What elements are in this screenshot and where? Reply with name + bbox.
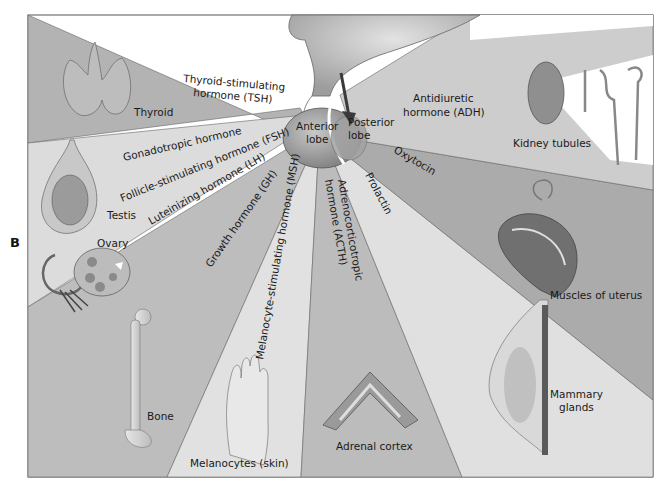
posterior-lobe-label-2: lobe bbox=[348, 129, 370, 141]
label-ovary: Ovary bbox=[97, 237, 128, 249]
hand-illustration bbox=[227, 355, 269, 465]
label-kidney-tubules: Kidney tubules bbox=[513, 137, 591, 149]
anterior-lobe-label-2: lobe bbox=[306, 133, 328, 145]
label-adrenal-cortex: Adrenal cortex bbox=[336, 440, 413, 452]
label-uterus: Muscles of uterus bbox=[550, 289, 642, 301]
anterior-lobe-label: Anterior bbox=[296, 120, 339, 132]
label-adh-2: hormone (ADH) bbox=[403, 106, 485, 118]
label-bone: Bone bbox=[147, 410, 174, 422]
posterior-lobe-label: Posterior bbox=[348, 116, 395, 128]
label-mammary-2: glands bbox=[559, 401, 594, 413]
panel-letter: B bbox=[10, 235, 20, 250]
label-testis: Testis bbox=[106, 209, 136, 221]
diagram-canvas: Anterior lobe Posterior lobe bbox=[0, 0, 667, 491]
label-thyroid: Thyroid bbox=[133, 106, 173, 118]
label-mammary-1: Mammary bbox=[550, 388, 603, 400]
pituitary-hormone-diagram: B bbox=[0, 0, 667, 491]
label-melanocytes: Melanocytes (skin) bbox=[190, 457, 289, 469]
label-adh-1: Antidiuretic bbox=[413, 92, 474, 104]
